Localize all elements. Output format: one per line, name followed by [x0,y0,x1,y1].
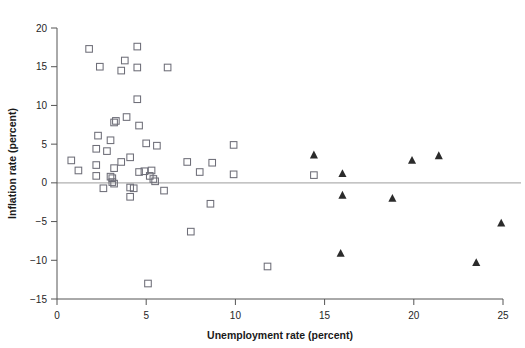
data-point-square [184,159,191,166]
data-point-triangle [472,258,480,266]
data-point-square [75,167,82,174]
data-point-triangle [338,169,346,177]
data-point-triangle [338,191,346,199]
data-point-square [93,145,100,152]
data-point-square [134,43,141,50]
data-point-square [134,96,141,103]
data-point-square [113,118,120,125]
x-tick-label: 0 [54,310,60,321]
data-point-square [86,46,93,53]
data-point-triangle [388,194,396,202]
data-point-square [136,122,143,129]
data-point-triangle [310,151,318,159]
data-point-square [118,159,125,166]
data-point-square [95,132,102,139]
data-point-square [230,171,237,178]
data-point-square [93,173,100,180]
data-point-square [230,142,237,149]
data-point-triangle [497,219,505,227]
data-point-square [154,142,161,149]
data-point-square [107,137,114,144]
y-tick-label: 15 [36,61,48,72]
data-point-square [68,157,75,164]
data-point-square [123,114,130,121]
x-tick-label: 20 [408,310,420,321]
data-point-square [111,119,118,126]
scatter-chart: −15−10−5051015200510152025Unemployment r… [0,0,525,348]
y-tick-label: 5 [41,139,47,150]
series-filled-triangle-series [310,151,505,266]
x-tick-label: 10 [230,310,242,321]
data-point-square [264,263,271,270]
data-point-square [134,64,141,71]
x-tick-label: 15 [319,310,331,321]
x-axis-label: Unemployment rate (percent) [207,329,353,341]
data-point-square [118,67,125,74]
y-tick-label: 0 [41,177,47,188]
data-point-square [196,169,203,176]
data-point-square [97,63,104,70]
x-tick-label: 25 [497,310,509,321]
data-point-square [100,185,107,192]
y-tick-label: −10 [30,255,47,266]
data-point-square [93,162,100,169]
data-point-square [164,64,171,71]
data-point-triangle [408,156,416,164]
x-tick-label: 5 [143,310,149,321]
data-point-triangle [435,151,443,159]
data-point-square [121,57,128,64]
data-point-square [207,200,214,207]
data-point-square [127,193,134,200]
y-tick-label: −5 [36,216,48,227]
data-point-square [111,165,118,172]
data-point-square [161,187,168,194]
y-tick-label: 10 [36,100,48,111]
y-tick-label: 20 [36,23,48,34]
plot-area: −15−10−5051015200510152025Unemployment r… [0,0,525,348]
data-point-square [188,228,195,235]
data-point-square [209,159,216,166]
data-point-square [127,154,134,161]
y-tick-label: −15 [30,294,47,305]
data-point-square [311,172,318,179]
data-point-triangle [337,249,345,257]
series-open-square-series [68,43,317,287]
data-point-square [143,140,150,147]
data-point-square [145,280,152,287]
y-axis-label: Inflation rate (percent) [6,108,18,219]
data-point-square [104,148,111,155]
